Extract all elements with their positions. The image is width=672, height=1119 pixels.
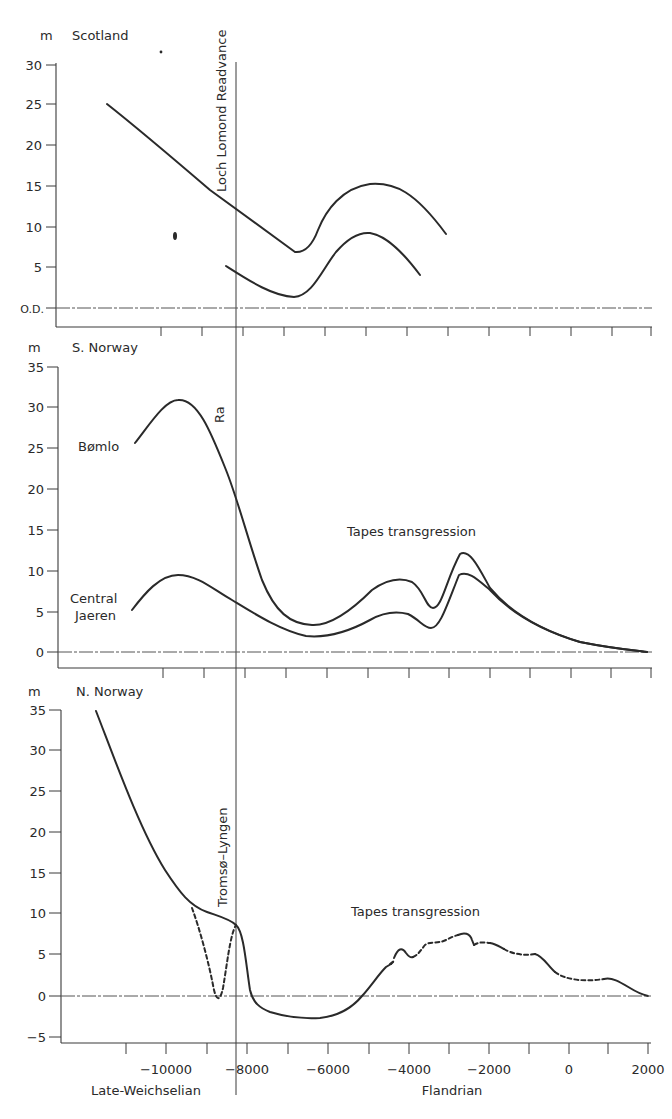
north-norway-tapes-dashed-5 (555, 972, 604, 980)
x-tick-label: −10000 (140, 1062, 192, 1077)
od-label: O.D. (20, 303, 44, 316)
y-tick-label: 30 (29, 743, 46, 758)
panel-scotland: m Scotland 30 25 20 15 10 5 O.D. (20, 28, 652, 336)
x-tick-label: 0 (565, 1062, 573, 1077)
y-tick-label: 30 (27, 400, 44, 415)
scotland-upper-curve (107, 104, 446, 252)
central-jaeren-label-line2: Jaeren (74, 608, 116, 623)
late-weichselian-label: Late-Weichselian (91, 1083, 201, 1098)
y-tick-label: 5 (34, 260, 42, 275)
y-tick-label: 5 (38, 947, 46, 962)
y-tick-label: 20 (29, 825, 46, 840)
y-tick-label: 10 (27, 564, 44, 579)
y-tick-label: 25 (25, 97, 42, 112)
ra-label: Ra (212, 406, 227, 423)
north-norway-tapes-dashed-4 (504, 949, 535, 955)
sea-level-chart: m Scotland 30 25 20 15 10 5 O.D. (0, 0, 672, 1119)
panel-title-north-norway: N. Norway (76, 684, 144, 699)
north-norway-tapes-solid-2 (394, 949, 413, 958)
x-ticks (161, 327, 651, 336)
tapes-transgression-label: Tapes transgression (346, 524, 476, 539)
x-tick-label: −6000 (306, 1062, 350, 1077)
scan-speck (160, 51, 163, 54)
tapes-transgression-label: Tapes transgression (350, 904, 480, 919)
y-tick-label: 10 (29, 906, 46, 921)
x-tick-label: −8000 (225, 1062, 269, 1077)
north-norway-tapes-dashed-2 (413, 935, 458, 957)
loch-lomond-readvance-label: Loch Lomond Readvance (214, 30, 229, 192)
x-tick-label: 2000 (631, 1062, 664, 1077)
central-jaeren-label-line1: Central (70, 591, 117, 606)
north-norway-tapes-solid-3 (458, 933, 474, 945)
x-tick-label: −4000 (387, 1062, 431, 1077)
y-tick-label: 15 (27, 523, 44, 538)
y-tick-label: 15 (29, 866, 46, 881)
y-unit-label: m (28, 340, 41, 355)
x-tick-label: −2000 (467, 1062, 511, 1077)
y-tick-label: 0 (38, 989, 46, 1004)
panel-north-norway: m N. Norway 35 30 25 20 15 10 5 0 −5 (27, 684, 665, 1098)
north-norway-tapes-solid-4 (490, 943, 504, 949)
y-tick-label: 35 (27, 360, 44, 375)
panel-title-south-norway: S. Norway (72, 340, 138, 355)
x-ticks (126, 1043, 648, 1054)
y-tick-label: 5 (36, 605, 44, 620)
central-jaeren-curve (132, 574, 647, 652)
y-tick-label: 25 (27, 441, 44, 456)
y-tick-label: −5 (27, 1030, 46, 1045)
panel-title-scotland: Scotland (72, 28, 129, 43)
y-tick-label: 20 (25, 138, 42, 153)
y-ticks (49, 710, 61, 1037)
scotland-lower-curve (226, 233, 420, 297)
y-tick-label: 15 (25, 179, 42, 194)
scan-speck (173, 232, 177, 240)
y-ticks (46, 65, 56, 308)
panel-south-norway: m S. Norway 35 30 25 20 15 10 5 0 (27, 340, 652, 678)
y-tick-label: 10 (25, 220, 42, 235)
y-tick-label: 30 (25, 58, 42, 73)
y-unit-label: m (40, 28, 53, 43)
y-tick-label: 25 (29, 784, 46, 799)
tromso-lyngen-label: Tromsø–Lyngen (215, 808, 230, 908)
north-norway-tapes-solid-5 (535, 954, 555, 972)
north-norway-main-curve (96, 711, 391, 1018)
y-tick-label: 35 (29, 703, 46, 718)
y-tick-label: 20 (27, 482, 44, 497)
y-tick-label: 0 (36, 645, 44, 660)
north-norway-tapes-dashed-1 (390, 961, 394, 964)
flandrian-label: Flandrian (422, 1083, 483, 1098)
bomlo-label: Bømlo (78, 439, 119, 454)
y-ticks (47, 367, 58, 652)
y-unit-label: m (28, 684, 41, 699)
north-norway-tapes-dashed-3 (474, 942, 490, 945)
north-norway-tapes-solid-6 (604, 979, 648, 996)
